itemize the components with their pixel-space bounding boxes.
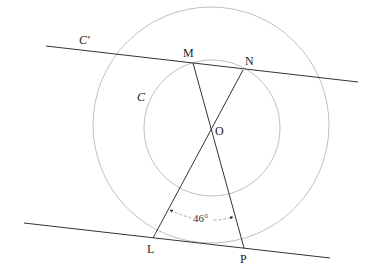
line-bottom [24,223,330,258]
label-m: M [183,46,194,60]
angle-label: 46° [193,212,208,224]
label-c: C [137,90,146,104]
label-o: O [215,124,224,138]
line-c-prime [46,46,358,82]
label-c-prime: C′ [79,33,90,47]
label-p: P [240,252,247,266]
geometry-diagram: 46° C′ C M N O L P [0,0,378,276]
label-n: N [245,54,254,68]
label-l: L [147,242,154,256]
outer-circle [93,7,329,243]
